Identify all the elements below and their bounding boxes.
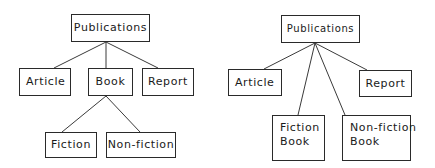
node-label-line2: Book xyxy=(280,135,324,149)
node-label-line2: Book xyxy=(350,135,410,149)
node-label-line1: Non-fiction xyxy=(350,121,410,135)
edge-publications-article xyxy=(54,42,106,68)
node-non-fiction-book: Non-fiction Book xyxy=(342,115,411,161)
node-report-2: Report xyxy=(359,70,412,97)
node-label: Article xyxy=(235,76,275,90)
node-label-line1: Fiction xyxy=(280,121,324,135)
node-report: Report xyxy=(142,68,194,96)
node-non-fiction: Non-fiction xyxy=(106,132,176,158)
edge-publications-report-2 xyxy=(315,43,367,70)
node-fiction-book: Fiction Book xyxy=(272,115,325,161)
node-label: Publications xyxy=(287,22,354,36)
node-fiction: Fiction xyxy=(45,132,97,158)
node-label: Report xyxy=(148,75,188,89)
edge-publications-nonfiction-book xyxy=(315,43,345,115)
edge-publications-report xyxy=(106,42,158,68)
node-article-2: Article xyxy=(228,69,282,96)
node-book: Book xyxy=(88,68,133,96)
edge-book-fiction xyxy=(62,96,106,132)
node-article: Article xyxy=(19,68,71,96)
edge-publications-article-2 xyxy=(264,43,315,69)
node-label: Book xyxy=(96,75,126,89)
node-label: Report xyxy=(365,77,405,91)
node-label: Publications xyxy=(74,21,147,35)
edge-publications-fiction-book xyxy=(298,43,315,115)
node-publications-2: Publications xyxy=(281,15,360,43)
node-label: Article xyxy=(26,75,66,89)
node-label: Fiction xyxy=(51,138,91,152)
node-publications: Publications xyxy=(71,14,150,42)
edge-book-nonfiction xyxy=(106,96,140,132)
node-label: Non-fiction xyxy=(108,138,175,152)
